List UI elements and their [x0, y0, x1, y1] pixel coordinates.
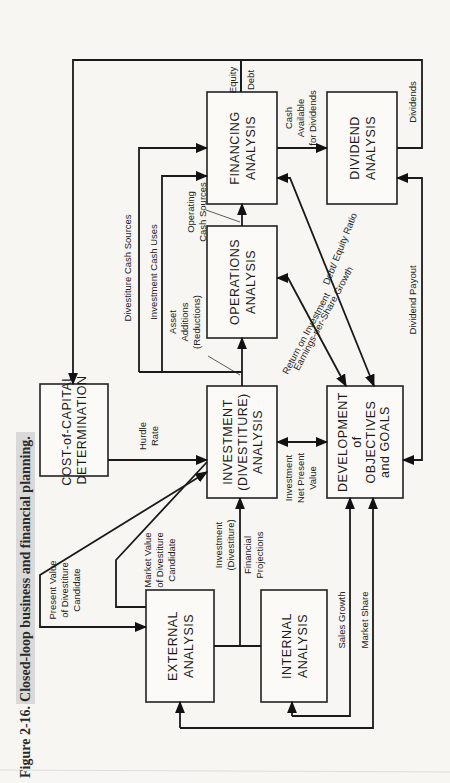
box-label: INTERNAL	[280, 613, 294, 679]
box-label: (DIVESTITURE)	[236, 393, 250, 490]
svg-text:of Divestiture: of Divestiture	[154, 532, 165, 587]
svg-text:Market Share: Market Share	[359, 591, 370, 648]
svg-text:Hurdle: Hurdle	[137, 422, 148, 450]
svg-text:Divestiture Cash Sources: Divestiture Cash Sources	[122, 214, 133, 321]
svg-text:for Dividends: for Dividends	[307, 90, 318, 146]
svg-text:Financial: Financial	[242, 536, 253, 574]
external-analysis-box: EXTERNAL ANALYSIS	[146, 590, 214, 702]
svg-text:Cash Sources: Cash Sources	[197, 182, 208, 242]
svg-text:Additions: Additions	[179, 302, 190, 341]
box-label: ANALYSIS	[244, 250, 258, 314]
svg-text:Investment Cash Uses: Investment Cash Uses	[148, 224, 159, 320]
box-label: and GOALS	[378, 406, 392, 478]
svg-text:Cash: Cash	[283, 107, 294, 129]
closed-loop-planning-diagram: Figure 2-16.Closed-loop business and fin…	[0, 0, 450, 783]
svg-text:Rate: Rate	[149, 426, 160, 446]
svg-text:Available: Available	[295, 99, 306, 137]
page-edge	[0, 770, 450, 772]
svg-text:Asset: Asset	[167, 310, 178, 334]
box-label: ANALYSIS	[244, 116, 258, 180]
sales-growth-label: Sales Growth	[336, 591, 347, 648]
market-value-label: Market Value of Divestiture Candidate	[142, 532, 177, 587]
box-label: DETERMINATION	[75, 375, 89, 484]
dividend-payout-label: Dividend Payout	[407, 265, 418, 335]
box-label: OPERATIONS	[228, 239, 242, 325]
divestiture-cash-sources-label: Divestiture Cash Sources	[122, 214, 133, 321]
figure-number: Figure 2-16.	[18, 706, 33, 778]
market-share-label: Market Share	[359, 591, 370, 648]
box-label: DEVELOPMENT	[336, 392, 350, 492]
internal-analysis-box: INTERNAL ANALYSIS	[261, 590, 327, 702]
investment-divestiture-label: Investment (Divestiture)	[213, 519, 236, 570]
present-value-label: Present Value of Divestiture Candidate	[47, 561, 82, 620]
svg-text:Market Value: Market Value	[142, 532, 153, 587]
svg-text:Projections: Projections	[254, 531, 265, 578]
box-label: COST-of-CAPITAL	[60, 374, 74, 485]
svg-text:Sales Growth: Sales Growth	[336, 591, 347, 648]
cost-of-capital-box: COST-of-CAPITAL DETERMINATION	[40, 374, 108, 485]
box-label: EXTERNAL	[166, 611, 180, 681]
investment-analysis-box: INVESTMENT (DIVESTITURE) ANALYSIS	[207, 386, 277, 498]
investment-cash-uses-label: Investment Cash Uses	[148, 224, 159, 320]
financing-analysis-box: FINANCING ANALYSIS	[207, 92, 277, 204]
box-label: ANALYSIS	[296, 614, 310, 678]
svg-text:of Divestiture: of Divestiture	[59, 562, 70, 617]
box-label: INVESTMENT	[221, 399, 235, 485]
svg-text:Figure 2-16.Closed-loop busine: Figure 2-16.Closed-loop business and fin…	[18, 436, 33, 778]
svg-text:(Divestiture): (Divestiture)	[225, 519, 236, 570]
cash-available-label: Cash Available for Dividends	[283, 90, 318, 146]
box-label: ANALYSIS	[251, 410, 265, 474]
svg-text:(Reductions): (Reductions)	[191, 295, 202, 349]
svg-text:Net Present: Net Present	[295, 453, 306, 504]
figure-caption: Figure 2-16.Closed-loop business and fin…	[16, 432, 35, 778]
development-objectives-box: DEVELOPMENT of OBJECTIVES and GOALS	[327, 386, 403, 498]
figure-title: Closed-loop business and financial plann…	[18, 436, 33, 702]
svg-text:Candidate: Candidate	[166, 538, 177, 581]
box-label: OBJECTIVES	[364, 401, 378, 484]
svg-text:Present Value: Present Value	[47, 561, 58, 620]
dividends-label: Dividends	[407, 81, 418, 123]
investment-npv-label: Investment Net Present Value	[283, 453, 318, 504]
box-label: FINANCING	[228, 111, 242, 184]
svg-text:Equity: Equity	[227, 67, 238, 94]
external-input-arrow	[40, 620, 146, 627]
svg-text:Debt: Debt	[245, 70, 256, 90]
svg-text:Value: Value	[307, 466, 318, 490]
svg-text:Candidate: Candidate	[71, 568, 82, 611]
box-label: ANALYSIS	[182, 614, 196, 678]
hurdle-rate-label: Hurdle Rate	[137, 422, 160, 450]
dividend-analysis-box: DIVIDEND ANALYSIS	[327, 92, 397, 204]
asset-additions-label: Asset Additions (Reductions)	[167, 295, 202, 349]
operating-cash-pointer	[206, 210, 240, 222]
box-label: DIVIDEND	[348, 116, 362, 180]
operations-analysis-box: OPERATIONS ANALYSIS	[207, 226, 277, 338]
svg-text:Investment: Investment	[283, 454, 294, 501]
box-label: of	[350, 436, 364, 447]
svg-text:Dividends: Dividends	[407, 81, 418, 123]
box-label: ANALYSIS	[364, 116, 378, 180]
financial-projections-label: Financial Projections	[242, 531, 265, 578]
debt-label: Debt	[245, 70, 256, 90]
svg-text:Dividend Payout: Dividend Payout	[407, 265, 418, 335]
svg-text:Operating: Operating	[185, 191, 196, 233]
operating-cash-sources-label: Operating Cash Sources	[185, 182, 208, 242]
svg-text:Investment: Investment	[213, 521, 224, 568]
equity-label: Equity	[227, 67, 238, 94]
